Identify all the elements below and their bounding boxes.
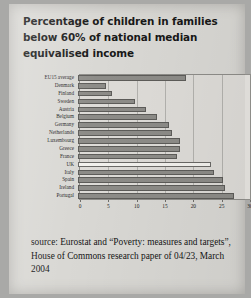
x-tick xyxy=(222,200,223,202)
chart-row: Ireland xyxy=(23,184,251,192)
x-tick xyxy=(193,200,194,202)
chart-row: Spain xyxy=(23,176,251,184)
chart-row: Denmark xyxy=(23,82,251,90)
bar-track xyxy=(77,137,249,145)
bar xyxy=(78,91,112,97)
chart-row: Luxembourg xyxy=(23,137,251,145)
category-label: Spain xyxy=(23,176,77,184)
chart-row: Italy xyxy=(23,169,251,177)
bar xyxy=(78,107,146,113)
category-label: Italy xyxy=(23,169,77,177)
x-tick xyxy=(108,200,109,202)
bar-track xyxy=(77,169,249,177)
category-label: Portugal xyxy=(23,192,77,200)
bar-track xyxy=(77,113,249,121)
x-tick-label: 0 xyxy=(79,203,82,209)
bar xyxy=(78,130,172,136)
x-tick-label: 5 xyxy=(107,203,110,209)
page-title: Percentage of children in families below… xyxy=(23,13,231,61)
category-label: Germany xyxy=(23,121,77,129)
bar xyxy=(78,170,214,176)
source-note: source: Eurostat and “Poverty: measures … xyxy=(31,236,235,277)
chart-row: UK xyxy=(23,161,251,169)
bar xyxy=(78,99,135,105)
bar-track xyxy=(77,74,249,82)
category-label: Netherlands xyxy=(23,129,77,137)
x-tick xyxy=(80,200,81,202)
bar xyxy=(78,75,186,81)
bar xyxy=(78,193,234,199)
x-tick-label: 25 xyxy=(219,203,224,209)
chart-row: Belgium xyxy=(23,113,251,121)
chart-row: Finland xyxy=(23,90,251,98)
chart-row: France xyxy=(23,153,251,161)
bar-track xyxy=(77,153,249,161)
category-label: Finland xyxy=(23,90,77,98)
x-tick-label: 30 xyxy=(247,203,251,209)
chart-row: Netherlands xyxy=(23,129,251,137)
bar xyxy=(78,138,180,144)
x-tick xyxy=(165,200,166,202)
chart-row: EU15 average xyxy=(23,74,251,82)
bar-track xyxy=(77,90,249,98)
chart-row: Germany xyxy=(23,121,251,129)
category-label: Denmark xyxy=(23,82,77,90)
bar xyxy=(78,185,225,191)
bar-chart: EU15 averageDenmarkFinlandSwedenAustriaB… xyxy=(23,66,237,218)
category-label: Greece xyxy=(23,145,77,153)
bar xyxy=(78,122,169,128)
category-label: Austria xyxy=(23,106,77,114)
category-label: France xyxy=(23,153,77,161)
x-tick xyxy=(250,200,251,202)
chart-row: Portugal xyxy=(23,192,251,200)
category-label: UK xyxy=(23,161,77,169)
bar xyxy=(78,177,223,183)
bar-track xyxy=(77,98,249,106)
category-label: Belgium xyxy=(23,113,77,121)
bar xyxy=(78,114,157,120)
bar-rows: EU15 averageDenmarkFinlandSwedenAustriaB… xyxy=(23,74,251,200)
bar xyxy=(78,162,211,168)
bar-track xyxy=(77,161,249,169)
category-label: Ireland xyxy=(23,184,77,192)
chart-row: Sweden xyxy=(23,98,251,106)
category-label: EU15 average xyxy=(23,74,77,82)
page-sheet: Percentage of children in families below… xyxy=(9,4,245,294)
x-tick-label: 15 xyxy=(162,203,167,209)
x-tick-label: 10 xyxy=(134,203,139,209)
category-label: Luxembourg xyxy=(23,137,77,145)
bar-track xyxy=(77,129,249,137)
bar-track xyxy=(77,145,249,153)
x-tick-label: 20 xyxy=(191,203,196,209)
x-axis: 051015202530 xyxy=(79,200,251,216)
bar xyxy=(78,146,180,152)
bar-track xyxy=(77,192,249,200)
chart-row: Austria xyxy=(23,106,251,114)
bar-track xyxy=(77,184,249,192)
scanned-page: Percentage of children in families below… xyxy=(0,0,251,298)
bar xyxy=(78,154,177,160)
bar-track xyxy=(77,176,249,184)
bar-track xyxy=(77,121,249,129)
bar xyxy=(78,83,106,89)
category-label: Sweden xyxy=(23,98,77,106)
bar-track xyxy=(77,82,249,90)
chart-row: Greece xyxy=(23,145,251,153)
bar-track xyxy=(77,106,249,114)
x-tick xyxy=(137,200,138,202)
